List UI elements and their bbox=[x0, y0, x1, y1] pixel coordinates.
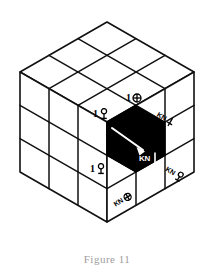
figure-container: 1 1 KN KN bbox=[0, 0, 214, 265]
isometric-cube-diagram bbox=[0, 0, 214, 265]
figure-caption: Figure 11 bbox=[0, 252, 214, 265]
